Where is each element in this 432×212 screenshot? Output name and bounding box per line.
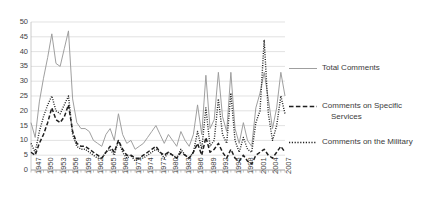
- plot-area: 05101520253035404550 1947195019531956195…: [0, 0, 300, 212]
- x-tick-label: 2001: [259, 157, 268, 174]
- x-tick-label: 1950: [46, 157, 55, 174]
- x-tick-label: 1980: [171, 157, 180, 174]
- legend-entry-1[interactable]: Comments on SpecificServices: [288, 101, 402, 122]
- x-tick-label: 1992: [221, 157, 230, 174]
- chart-container: 05101520253035404550 1947195019531956195…: [0, 0, 432, 212]
- x-tick-label: 1995: [234, 157, 243, 174]
- x-tick-label: 1977: [159, 157, 168, 174]
- x-tick-label: 1947: [34, 157, 43, 174]
- x-tick-label: 1965: [109, 157, 118, 174]
- legend-label-line2: Services: [322, 112, 402, 123]
- x-tick-label: 1998: [246, 157, 255, 174]
- x-tick-label: 1983: [184, 157, 193, 174]
- x-axis-labels: 1947195019531956195919621965196819711974…: [0, 0, 300, 212]
- legend-label-1: Comments on SpecificServices: [322, 101, 402, 122]
- x-tick-label: 1962: [96, 157, 105, 174]
- x-tick-label: 1989: [209, 157, 218, 174]
- x-tick-label: 1953: [59, 157, 68, 174]
- x-tick-label: 1956: [71, 157, 80, 174]
- x-tick-label: 1959: [84, 157, 93, 174]
- x-tick-label: 2004: [271, 157, 280, 174]
- x-tick-label: 1974: [146, 157, 155, 174]
- chart-legend: Total CommentsComments on SpecificServic…: [286, 0, 432, 212]
- legend-label-0: Total Comments: [322, 63, 380, 74]
- x-tick-label: 1986: [196, 157, 205, 174]
- legend-label-2: Comments on the Military: [322, 137, 413, 148]
- legend-entry-2[interactable]: Comments on the Military: [288, 137, 413, 148]
- legend-entry-0[interactable]: Total Comments: [288, 63, 380, 74]
- legend-key-dotted-icon: [288, 137, 318, 147]
- x-tick-label: 1971: [134, 157, 143, 174]
- legend-key-solid-icon: [288, 63, 318, 73]
- x-tick-label: 1968: [121, 157, 130, 174]
- legend-key-dashed-icon: [288, 101, 318, 111]
